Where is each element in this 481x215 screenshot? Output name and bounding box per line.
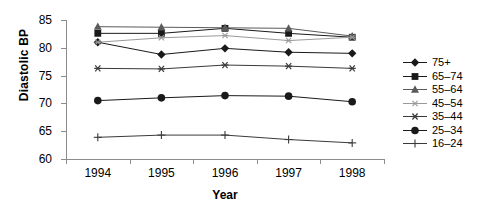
x-axis-line — [66, 159, 385, 160]
legend-key-asterisk-icon — [402, 110, 428, 123]
chart-legend: 75+65–7455–6445–5435–4425–3416–24 — [402, 56, 463, 151]
legend-item-65-74[interactable]: 65–74 — [402, 70, 463, 84]
y-tick-label: 65 — [39, 124, 52, 138]
legend-item-35-44[interactable]: 35–44 — [402, 110, 463, 124]
x-tick-label: 1996 — [212, 166, 239, 180]
data-point-asterisk — [221, 62, 228, 68]
data-point-asterisk — [158, 66, 165, 72]
data-point-asterisk — [349, 65, 356, 71]
data-point-plus — [94, 133, 102, 141]
data-point-diamond — [221, 44, 229, 52]
x-tick — [320, 159, 321, 164]
legend-label: 75+ — [432, 56, 451, 69]
data-point-circle — [285, 92, 293, 100]
data-point-square — [412, 73, 419, 80]
plot-area: 858075706560 19941995199619971998 — [66, 20, 384, 159]
data-point-asterisk — [285, 63, 292, 69]
y-tick-label: 85 — [39, 13, 52, 27]
x-tick — [193, 159, 194, 164]
x-tick-label: 1994 — [84, 166, 111, 180]
legend-label: 25–34 — [432, 124, 463, 137]
legend-item-45-54[interactable]: 45–54 — [402, 97, 463, 111]
y-tick-label: 60 — [39, 152, 52, 166]
series-25-34 — [94, 92, 356, 106]
y-tick-label: 80 — [39, 41, 52, 55]
series-35-44 — [94, 62, 356, 72]
y-axis-title: Diastolic BP — [17, 5, 31, 125]
data-point-circle — [411, 126, 419, 134]
x-tick — [66, 159, 67, 164]
data-point-asterisk — [94, 65, 101, 71]
legend-key-diamond-icon — [402, 56, 428, 69]
legend-key-x-small-icon — [402, 97, 428, 110]
legend-key-square-icon — [402, 70, 428, 83]
data-point-asterisk — [411, 114, 418, 120]
data-point-x-small — [285, 38, 291, 43]
data-point-plus — [157, 131, 165, 139]
x-tick — [384, 159, 385, 164]
data-point-diamond — [284, 48, 292, 56]
legend-label: 65–74 — [432, 70, 463, 83]
y-tick-label: 70 — [39, 96, 52, 110]
legend-label: 45–54 — [432, 97, 463, 110]
x-axis-title: Year — [60, 188, 390, 202]
data-point-circle — [221, 92, 229, 100]
y-tick-label: 75 — [39, 69, 52, 83]
legend-label: 35–44 — [432, 110, 463, 123]
data-point-diamond — [348, 49, 356, 57]
data-point-plus — [285, 136, 293, 144]
legend-label: 55–64 — [432, 83, 463, 96]
legend-item-55-64[interactable]: 55–64 — [402, 83, 463, 97]
data-point-diamond — [411, 59, 419, 67]
legend-item-75-[interactable]: 75+ — [402, 56, 463, 70]
data-point-circle — [94, 97, 102, 105]
legend-key-circle-icon — [402, 124, 428, 137]
series-55-64 — [94, 22, 356, 39]
series-line — [98, 36, 352, 43]
data-point-plus — [411, 140, 419, 148]
data-point-circle — [158, 94, 166, 102]
series-75- — [94, 38, 357, 59]
legend-item-25-34[interactable]: 25–34 — [402, 124, 463, 138]
x-tick — [130, 159, 131, 164]
data-point-x-small — [412, 101, 418, 106]
legend-key-triangle-icon — [402, 83, 428, 96]
x-tick-label: 1995 — [148, 166, 175, 180]
x-tick — [257, 159, 258, 164]
legend-key-plus-icon — [402, 137, 428, 150]
x-tick-label: 1997 — [275, 166, 302, 180]
series-16-24 — [94, 131, 356, 147]
legend-label: 16–24 — [432, 137, 463, 150]
x-tick-label: 1998 — [339, 166, 366, 180]
data-point-circle — [348, 98, 356, 106]
data-point-x-small — [222, 33, 228, 38]
data-point-diamond — [157, 50, 165, 58]
data-point-plus — [221, 131, 229, 139]
legend-item-16-24[interactable]: 16–24 — [402, 137, 463, 151]
data-point-triangle — [94, 22, 102, 29]
series-plot — [66, 20, 384, 159]
diastolic-bp-line-chart: Diastolic BP Year 858075706560 199419951… — [0, 0, 481, 215]
data-point-square — [94, 30, 101, 37]
data-point-plus — [348, 139, 356, 147]
